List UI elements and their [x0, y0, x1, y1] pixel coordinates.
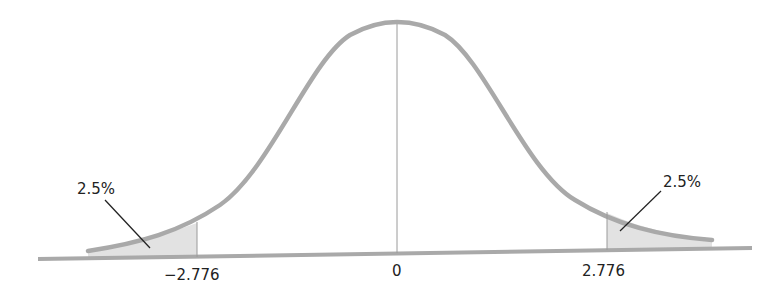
left-tail-pointer [105, 200, 150, 248]
left-tail-label: 2.5% [77, 180, 115, 198]
center-value-label: 0 [392, 262, 402, 280]
right-tail-label: 2.5% [663, 173, 701, 191]
left-critical-value-label: −2.776 [164, 266, 220, 284]
right-tail-pointer [620, 191, 661, 231]
t-distribution-diagram [0, 0, 770, 303]
density-curve [88, 22, 712, 251]
right-critical-value-label: 2.776 [582, 262, 625, 280]
